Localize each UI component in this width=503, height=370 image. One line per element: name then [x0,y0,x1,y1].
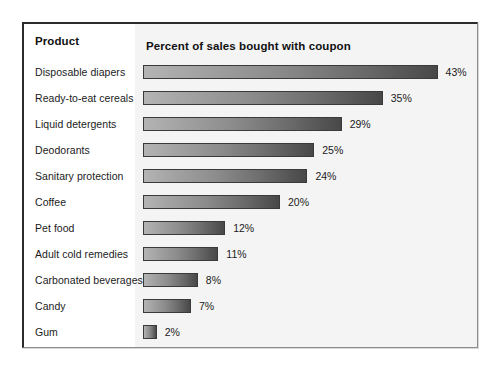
bar [143,169,307,183]
bar-track: 7% [143,299,473,313]
bar [143,65,438,79]
chart-panel: Product Percent of sales bought with cou… [22,22,478,348]
bar-value-label: 24% [315,170,336,182]
bar-track: 11% [143,247,473,261]
chart-row: Carbonated beverages8% [24,267,477,293]
category-label: Sanitary protection [35,170,124,182]
category-label: Liquid detergents [35,118,116,130]
bar [143,143,314,157]
category-label: Disposable diapers [35,66,125,78]
chart-row: Candy7% [24,293,477,319]
bar-value-label: 12% [233,222,254,234]
category-label: Deodorants [35,144,90,156]
bar-track: 35% [143,91,473,105]
column-header-product: Product [35,35,79,47]
category-label: Coffee [35,196,66,208]
category-label: Gum [35,326,58,338]
category-label: Adult cold remedies [35,248,128,260]
bar-value-label: 2% [165,326,180,338]
chart-row: Coffee20% [24,189,477,215]
category-label: Carbonated beverages [35,274,143,286]
bar-track: 20% [143,195,473,209]
chart-row: Gum2% [24,319,477,345]
chart-row: Liquid detergents29% [24,111,477,137]
bar [143,221,225,235]
chart-row: Deodorants25% [24,137,477,163]
bar-track: 43% [143,65,473,79]
bar [143,299,191,313]
bar-track: 2% [143,325,473,339]
bar [143,273,198,287]
bar-value-label: 7% [199,300,214,312]
bar-value-label: 11% [226,248,246,260]
bar-value-label: 25% [322,144,343,156]
chart-row: Ready-to-eat cereals35% [24,85,477,111]
bar-track: 12% [143,221,473,235]
chart-row: Disposable diapers43% [24,59,477,85]
bar-value-label: 20% [288,196,309,208]
bar [143,117,342,131]
chart-row: Sanitary protection24% [24,163,477,189]
bar [143,195,280,209]
chart-row: Pet food12% [24,215,477,241]
bar-track: 25% [143,143,473,157]
chart-row: Adult cold remedies11% [24,241,477,267]
bar-value-label: 43% [446,66,467,78]
category-label: Ready-to-eat cereals [35,92,133,104]
bar-rows: Disposable diapers43%Ready-to-eat cereal… [24,59,477,345]
bar [143,91,383,105]
category-label: Candy [35,300,66,312]
column-header-metric: Percent of sales bought with coupon [146,40,351,52]
bar-track: 8% [143,273,473,287]
bar [143,325,157,339]
category-label: Pet food [35,222,75,234]
bar-track: 29% [143,117,473,131]
bar-track: 24% [143,169,473,183]
bar-value-label: 35% [391,92,412,104]
bar-value-label: 8% [206,274,221,286]
bar [143,247,218,261]
bar-value-label: 29% [350,118,371,130]
